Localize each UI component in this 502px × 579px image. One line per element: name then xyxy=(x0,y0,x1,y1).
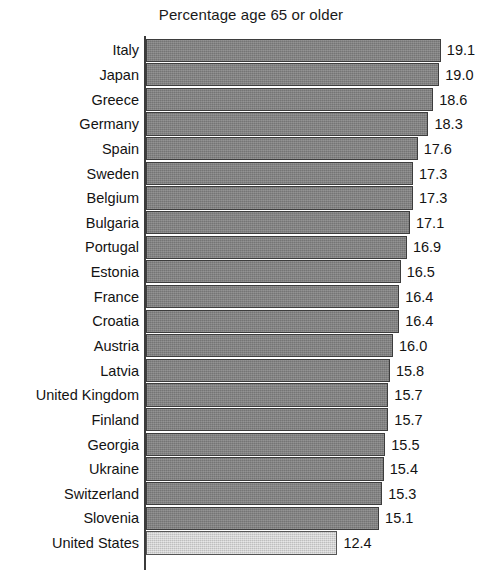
value-label: 19.1 xyxy=(441,43,475,58)
value-label: 16.4 xyxy=(399,314,433,329)
bar-row: Portugal16.9 xyxy=(0,235,502,260)
bar-row: Germany18.3 xyxy=(0,112,502,137)
bar-rows: Italy19.1Japan19.0Greece18.6Germany18.3S… xyxy=(0,38,502,555)
bar xyxy=(146,433,385,456)
bar xyxy=(146,359,390,382)
bar xyxy=(146,383,388,406)
category-label: Germany xyxy=(79,117,139,132)
category-label: Austria xyxy=(94,339,139,354)
bar-row: France16.4 xyxy=(0,284,502,309)
bar-row: Spain17.6 xyxy=(0,137,502,162)
value-label: 17.1 xyxy=(410,216,444,231)
value-label: 15.3 xyxy=(382,487,416,502)
bar xyxy=(146,507,379,530)
bar-row: Latvia15.8 xyxy=(0,358,502,383)
value-label: 15.7 xyxy=(388,413,422,428)
value-label: 19.0 xyxy=(439,68,473,83)
category-label: United Kingdom xyxy=(36,388,139,403)
category-label: Spain xyxy=(102,142,139,157)
category-label: Slovenia xyxy=(83,511,139,526)
value-label: 15.7 xyxy=(388,388,422,403)
bar-row: Croatia16.4 xyxy=(0,309,502,334)
category-label: Italy xyxy=(112,43,139,58)
category-label: Belgium xyxy=(87,191,139,206)
bar xyxy=(146,334,393,357)
bar-row: Estonia16.5 xyxy=(0,260,502,285)
value-label: 16.4 xyxy=(399,289,433,304)
bar-highlighted xyxy=(146,531,337,554)
bar xyxy=(146,162,413,185)
value-label: 17.6 xyxy=(418,142,452,157)
bar xyxy=(146,211,410,234)
bar-row: Slovenia15.1 xyxy=(0,506,502,531)
bar xyxy=(146,186,413,209)
value-label: 15.8 xyxy=(390,363,424,378)
value-label: 15.4 xyxy=(384,462,418,477)
bar-row: Austria16.0 xyxy=(0,334,502,359)
value-label: 18.3 xyxy=(428,117,462,132)
value-label: 16.0 xyxy=(393,339,427,354)
category-label: Japan xyxy=(99,68,139,83)
value-label: 16.9 xyxy=(407,240,441,255)
value-label: 16.5 xyxy=(401,265,435,280)
bar-row: Italy19.1 xyxy=(0,38,502,63)
value-label: 15.5 xyxy=(385,437,419,452)
bar xyxy=(146,260,401,283)
bar xyxy=(146,63,439,86)
bar-row: United Kingdom15.7 xyxy=(0,383,502,408)
category-label: Finland xyxy=(91,413,139,428)
bar xyxy=(146,88,433,111)
category-label: United States xyxy=(52,536,139,551)
category-label: Bulgaria xyxy=(86,216,139,231)
bar xyxy=(146,310,399,333)
bar xyxy=(146,408,388,431)
bar-chart: Percentage age 65 or older Italy19.1Japa… xyxy=(0,0,502,579)
value-label: 17.3 xyxy=(413,191,447,206)
bar xyxy=(146,112,428,135)
value-label: 15.1 xyxy=(379,511,413,526)
bar-row: Belgium17.3 xyxy=(0,186,502,211)
bar-row: Ukraine15.4 xyxy=(0,457,502,482)
value-label: 12.4 xyxy=(337,536,371,551)
bar-row: Switzerland15.3 xyxy=(0,482,502,507)
category-label: Ukraine xyxy=(89,462,139,477)
category-label: Sweden xyxy=(87,166,139,181)
category-label: Croatia xyxy=(92,314,139,329)
category-label: Latvia xyxy=(100,363,139,378)
category-label: Georgia xyxy=(87,437,139,452)
bar xyxy=(146,137,418,160)
category-label: Estonia xyxy=(91,265,139,280)
bar-row: Finland15.7 xyxy=(0,408,502,433)
bar xyxy=(146,39,441,62)
bar-row: Georgia15.5 xyxy=(0,432,502,457)
bar-row: Greece18.6 xyxy=(0,87,502,112)
bar xyxy=(146,457,384,480)
value-label: 18.6 xyxy=(433,92,467,107)
bar-row: United States12.4 xyxy=(0,531,502,556)
category-label: Switzerland xyxy=(64,487,139,502)
bar-row: Sweden17.3 xyxy=(0,161,502,186)
chart-title: Percentage age 65 or older xyxy=(0,6,502,23)
bar xyxy=(146,285,399,308)
category-label: Greece xyxy=(91,92,139,107)
plot-area: Italy19.1Japan19.0Greece18.6Germany18.3S… xyxy=(0,36,502,561)
bar xyxy=(146,482,382,505)
category-label: France xyxy=(94,289,139,304)
bar xyxy=(146,236,407,259)
value-label: 17.3 xyxy=(413,166,447,181)
bar-row: Bulgaria17.1 xyxy=(0,210,502,235)
bar-row: Japan19.0 xyxy=(0,63,502,88)
category-label: Portugal xyxy=(85,240,139,255)
